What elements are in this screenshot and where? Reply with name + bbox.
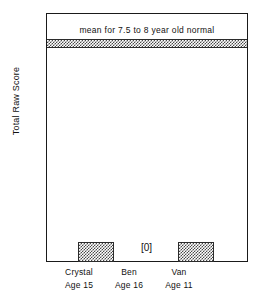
category-label-van: Van Age 11 <box>149 267 209 290</box>
mean-band-label: mean for 7.5 to 8 year old normal <box>47 25 247 35</box>
category-age-van: Age 11 <box>149 280 209 290</box>
bar-crystal <box>78 242 114 262</box>
plot-area: mean for 7.5 to 8 year old normal [0] <box>46 13 248 262</box>
category-name-van: Van <box>149 267 209 277</box>
mean-reference-band <box>47 39 247 48</box>
y-axis-title: Total Raw Score <box>11 41 21 161</box>
bar-van <box>178 242 214 262</box>
bar-chart: Total Raw Score 12 10 8 6 4 2 mean for 7… <box>0 0 256 299</box>
bar-ben-zero-marker: [0] <box>128 242 165 253</box>
